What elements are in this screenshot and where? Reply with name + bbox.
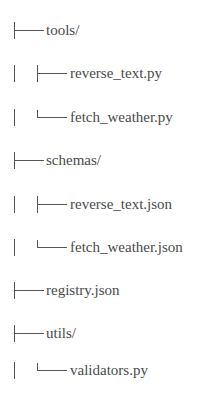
file-label: registry.json	[46, 280, 120, 300]
tee-connector-icon	[14, 325, 44, 342]
tree-row-folder: schemas/	[0, 150, 200, 170]
vertical-guide-icon	[14, 109, 15, 126]
file-label: fetch_weather.json	[70, 237, 183, 257]
tee-connector-icon	[37, 196, 67, 213]
elbow-connector-icon	[37, 362, 67, 379]
directory-tree: tools/ reverse_text.py fetch_weather.py …	[0, 0, 200, 393]
tree-row-folder: utils/	[0, 323, 200, 343]
folder-label: utils/	[46, 323, 76, 343]
folder-label: tools/	[46, 20, 79, 40]
elbow-connector-icon	[37, 109, 67, 126]
tee-connector-icon	[14, 152, 44, 169]
vertical-guide-icon	[14, 239, 15, 256]
file-label: reverse_text.json	[70, 194, 172, 214]
vertical-guide-icon	[14, 196, 15, 213]
vertical-guide-icon	[14, 65, 15, 82]
tree-row-file: fetch_weather.json	[0, 237, 200, 257]
folder-label: schemas/	[46, 150, 101, 170]
tree-row-file: validators.py	[0, 360, 200, 380]
elbow-connector-icon	[37, 239, 67, 256]
file-label: fetch_weather.py	[70, 107, 173, 127]
tree-row-file: fetch_weather.py	[0, 107, 200, 127]
tee-connector-icon	[14, 22, 44, 39]
vertical-guide-icon	[14, 362, 15, 379]
tree-row-file: reverse_text.py	[0, 63, 200, 83]
file-label: validators.py	[70, 360, 148, 380]
tree-row-file: reverse_text.json	[0, 194, 200, 214]
file-label: reverse_text.py	[70, 63, 162, 83]
tree-row-file: registry.json	[0, 280, 200, 300]
tree-row-folder: tools/	[0, 20, 200, 40]
tee-connector-icon	[37, 65, 67, 82]
tee-connector-icon	[14, 282, 44, 299]
